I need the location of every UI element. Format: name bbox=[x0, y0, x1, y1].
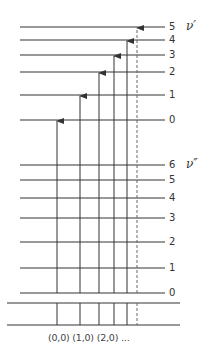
upper-level-label: 2 bbox=[169, 67, 175, 77]
lower-state-levels bbox=[20, 165, 165, 293]
lower-level-label: 5 bbox=[169, 175, 175, 185]
transition-arrows bbox=[57, 28, 137, 325]
lower-level-label: 6 bbox=[169, 160, 175, 170]
upper-state-symbol: ν′ bbox=[186, 20, 196, 32]
upper-level-label: 4 bbox=[169, 35, 175, 45]
upper-level-label: 1 bbox=[169, 90, 175, 100]
spectrum-axis-lines bbox=[7, 303, 180, 325]
transition-label: (0,0) (1,0) (2,0) ... bbox=[48, 332, 129, 343]
lower-level-label: 3 bbox=[169, 213, 175, 223]
upper-level-label: 5 bbox=[169, 22, 175, 32]
lower-level-label: 1 bbox=[169, 263, 175, 273]
lower-state-symbol: ν″ bbox=[186, 158, 198, 170]
upper-level-label: 3 bbox=[169, 50, 175, 60]
lower-level-label: 4 bbox=[169, 193, 175, 203]
lower-level-label: 2 bbox=[169, 237, 175, 247]
energy-level-diagram bbox=[0, 0, 211, 358]
upper-state-levels bbox=[20, 27, 165, 120]
upper-level-label: 0 bbox=[169, 115, 175, 125]
lower-level-label: 0 bbox=[169, 288, 175, 298]
